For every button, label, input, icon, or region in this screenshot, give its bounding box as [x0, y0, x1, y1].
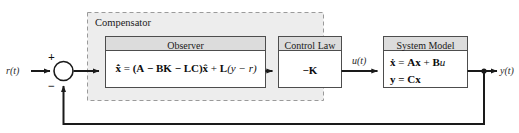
reference-signal-label: r(t): [6, 66, 19, 76]
control-signal-label: u(t): [352, 56, 366, 66]
control-law-block-title: Control Law: [278, 40, 342, 51]
output-signal-label: y(t): [500, 66, 514, 76]
block-diagram-canvas: r(t) + − Compensator Observer x̂̇ = (A −…: [0, 0, 519, 133]
summing-junction-minus-sign: −: [48, 80, 55, 92]
system-model-eq1-plus: +: [421, 56, 433, 68]
compensator-label: Compensator: [95, 18, 151, 29]
system-model-eq1-b: B: [432, 56, 439, 68]
system-model-block-title: System Model: [383, 40, 468, 51]
system-model-output-equation: y = Cx: [390, 73, 421, 85]
observer-block-equation: x̂̇ = (A − BK − LC)x̂ + L(y − r): [110, 62, 262, 74]
summing-junction-circle: [54, 62, 73, 81]
system-model-eq1-u: u: [440, 56, 446, 68]
observer-eq-matrix-group: (A − BK − LC): [133, 62, 203, 74]
summing-junction-plus-sign: +: [48, 51, 55, 63]
observer-eq-plus: +: [208, 62, 220, 74]
control-law-block-equation: −K: [278, 64, 342, 76]
system-model-state-equation: ẋ = Ax + Bu: [390, 56, 445, 68]
observer-block-title: Observer: [105, 40, 266, 51]
observer-eq-equals: =: [121, 62, 133, 74]
system-model-eq1-ax: Ax: [407, 56, 420, 68]
system-model-eq1-equals: =: [396, 56, 408, 68]
observer-eq-error-group: (y − r): [227, 62, 256, 74]
